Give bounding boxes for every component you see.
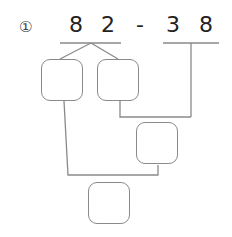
digit-left-tens: 8	[69, 14, 83, 36]
digit-right-tens: 3	[166, 14, 180, 36]
answer-box-intermediate[interactable]	[136, 122, 178, 164]
problem-index-label: ①	[19, 20, 32, 35]
answer-box-split-ones[interactable]	[97, 59, 139, 101]
answer-box-result[interactable]	[88, 182, 130, 224]
answer-box-split-tens[interactable]	[41, 59, 83, 101]
digit-right-ones: 8	[199, 14, 213, 36]
minus-operator: -	[136, 14, 144, 36]
digit-left-ones: 2	[101, 14, 115, 36]
